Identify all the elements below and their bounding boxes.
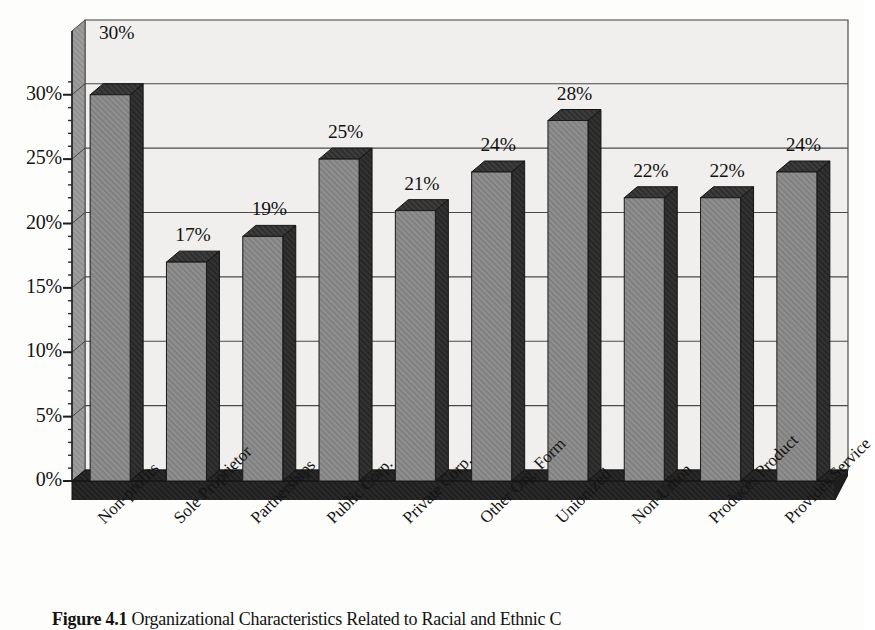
bar-value-label: 24% (476, 134, 520, 156)
bar-column (243, 225, 296, 481)
y-axis-tick-label: 25% (2, 146, 62, 169)
bar-column (548, 110, 601, 482)
x-axis-category-labels: Non-profitsSole ProprietorPartnershipsPu… (0, 488, 865, 608)
bar-value-label: 17% (171, 224, 215, 246)
bar-chart-3d: 0%5%10%15%20%25%30% 30%17%19%25%21%24%28… (0, 0, 865, 500)
y-axis-tick-label: 5% (2, 404, 62, 427)
bar-value-label: 22% (629, 160, 673, 182)
chart-canvas (0, 0, 865, 500)
y-axis-tick-label: 20% (2, 211, 62, 234)
bar-column (166, 251, 219, 481)
bar-column (624, 187, 677, 481)
bar-value-label: 21% (400, 173, 444, 195)
bar-value-label: 30% (95, 22, 139, 44)
caption-text: Organizational Characteristics Related t… (131, 609, 561, 629)
caption-figure-number: Figure 4.1 (52, 609, 127, 629)
figure-caption: Figure 4.1 Organizational Characteristic… (52, 609, 842, 630)
bar-value-label: 24% (781, 134, 825, 156)
bar-column (319, 148, 372, 481)
bar-column (90, 84, 143, 481)
y-axis-tick-label: 15% (2, 275, 62, 298)
bar-column (395, 200, 448, 481)
y-axis-tick-label: 30% (2, 82, 62, 105)
y-axis-tick-label: 10% (2, 339, 62, 362)
bar-value-label: 22% (705, 160, 749, 182)
bar-value-label: 28% (552, 83, 596, 105)
bar-value-label: 25% (324, 121, 368, 143)
bar-column (472, 161, 525, 481)
bar-column (701, 187, 754, 481)
bar-value-label: 19% (247, 198, 291, 220)
